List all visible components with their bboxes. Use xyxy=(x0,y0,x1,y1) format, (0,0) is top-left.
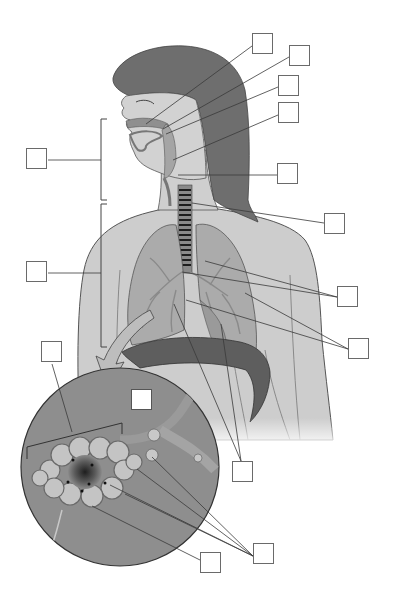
label-box-nasopharynx[interactable] xyxy=(289,45,310,66)
label-box-bronchi[interactable] xyxy=(337,286,358,307)
respiratory-diagram xyxy=(0,0,393,603)
label-box-oropharynx[interactable] xyxy=(278,102,299,123)
label-box-lungs[interactable] xyxy=(232,461,253,482)
label-box-pharynx[interactable] xyxy=(278,75,299,96)
label-box-inset[interactable] xyxy=(131,389,152,410)
upper-tract-bracket xyxy=(101,119,107,200)
alveoli-inset xyxy=(21,368,219,566)
label-box-nasal-cavity[interactable] xyxy=(252,33,273,54)
label-box-alveoli-bracket[interactable] xyxy=(41,341,62,362)
label-box-trachea[interactable] xyxy=(324,213,345,234)
anatomy-illustration xyxy=(0,0,393,603)
label-box-alveolar-sac[interactable] xyxy=(200,552,221,573)
label-box-bronchioles[interactable] xyxy=(348,338,369,359)
label-box-alveoli[interactable] xyxy=(253,543,274,564)
label-box-upper-tract[interactable] xyxy=(26,148,47,169)
label-box-lower-tract[interactable] xyxy=(26,261,47,282)
label-box-larynx[interactable] xyxy=(277,163,298,184)
